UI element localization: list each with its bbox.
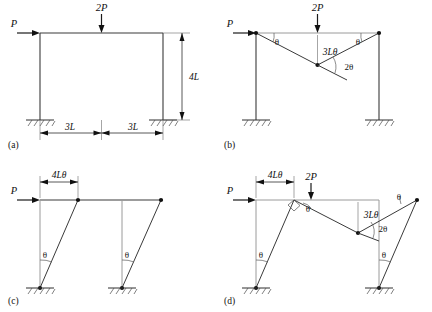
- panel-a-dim-4L: 4L: [163, 33, 199, 120]
- panel-b-load-P-label: P: [226, 18, 234, 29]
- panel-d-hinge-top-right: [415, 198, 419, 202]
- panel-a-load-2P-label: 2P: [96, 2, 108, 13]
- panel-c-right-column-displaced: [122, 200, 161, 288]
- panel-a-dim-4L-label: 4L: [189, 72, 199, 82]
- figure-root: P 2P 4L 3L 3L: [0, 0, 432, 312]
- panel-b-load-2P: 2P: [312, 2, 324, 33]
- panel-a-dim-3L-right: 3L: [102, 120, 164, 140]
- panel-c-angle-left: θ: [40, 250, 52, 262]
- panel-d-load-2P-label: 2P: [305, 171, 317, 182]
- panel-b-angle-right: θ: [356, 33, 362, 47]
- panel-c-angle-right: θ: [122, 250, 134, 262]
- panel-d-load-P-label: P: [226, 185, 234, 196]
- panel-a-load-2P: 2P: [96, 2, 108, 33]
- panel-d-angle-beam-right-label: θ: [397, 192, 401, 202]
- panel-d-angle-apex-label: 2θ: [379, 224, 388, 234]
- panel-b-deflection: 3Lθ: [318, 35, 338, 63]
- panel-d-dim-4Ltheta-label: 4Lθ: [268, 170, 283, 180]
- panel-d-angle-beam-left-label: θ: [306, 204, 310, 214]
- panel-d-left-column-displaced: [256, 200, 294, 288]
- panel-b-support-left: [242, 120, 271, 126]
- panel-a-support-left: [26, 120, 55, 126]
- panel-b-hinge-right: [377, 31, 381, 35]
- panel-d-dim-4Ltheta: 4Lθ: [256, 170, 294, 198]
- panel-d-right-column-displaced: [379, 200, 417, 288]
- panel-d-angle-right-column: θ: [379, 250, 391, 262]
- panel-a-load-P: P: [10, 18, 40, 36]
- panel-b-load-P: P: [226, 18, 256, 36]
- panel-c-angle-left-label: θ: [43, 250, 47, 260]
- panel-c-left-column-displaced: [40, 200, 78, 288]
- panel-c-load-P-label: P: [10, 185, 18, 196]
- panel-b-angle-apex-label: 2θ: [345, 62, 354, 72]
- panel-d-angle-beam-left: θ: [303, 203, 311, 214]
- panel-d-angle-right-column-label: θ: [382, 250, 386, 260]
- panel-a-label: (a): [8, 140, 19, 151]
- panel-a-dim-3L-left: 3L: [40, 120, 102, 140]
- panel-c-label: (c): [8, 296, 19, 307]
- panel-b-angle-left-label: θ: [275, 37, 279, 47]
- panel-c: P 4Lθ θ θ (c): [8, 170, 163, 307]
- panel-a-load-P-label: P: [10, 18, 18, 29]
- panel-b-support-right: [365, 120, 394, 126]
- panel-a-dim-3L-right-label: 3L: [127, 122, 138, 132]
- panel-c-load-P: P: [10, 185, 40, 203]
- panel-b: P 2P θ θ 3Lθ 2θ (b): [224, 2, 394, 151]
- panel-b-deflection-label: 3Lθ: [322, 47, 338, 57]
- panel-d-deflection-label: 3Lθ: [363, 210, 379, 220]
- panel-d-label: (d): [224, 296, 235, 307]
- panel-c-dim-4Ltheta-label: 4Lθ: [52, 170, 67, 180]
- panel-c-hinge-top-left: [76, 198, 80, 202]
- panel-a-dim-3L-left-label: 3L: [64, 122, 75, 132]
- panel-b-load-2P-label: 2P: [312, 2, 324, 13]
- mechanisms-figure: P 2P 4L 3L 3L: [0, 0, 432, 312]
- panel-d-load-2P: 2P: [305, 171, 317, 200]
- panel-b-angle-right-label: θ: [356, 37, 360, 47]
- panel-d-angle-left-column: θ: [256, 250, 268, 262]
- panel-d-load-P: P: [226, 185, 256, 203]
- panel-c-dim-4Ltheta: 4Lθ: [40, 170, 78, 198]
- panel-b-label: (b): [224, 140, 235, 151]
- panel-c-angle-right-label: θ: [125, 250, 129, 260]
- panel-a-support-right: [149, 120, 178, 126]
- panel-d-angle-apex: 2θ: [358, 222, 387, 241]
- panel-d-beam-mechanism: [294, 200, 417, 233]
- panel-d-angle-beam-right: θ: [397, 192, 401, 204]
- panel-c-hinge-top-right: [159, 198, 163, 202]
- panel-d-angle-left-column-label: θ: [259, 250, 263, 260]
- panel-b-angle-left: θ: [273, 33, 279, 47]
- panel-a: P 2P 4L 3L 3L: [8, 2, 199, 151]
- panel-d: P 2P 4Lθ θ θ 3Lθ: [224, 170, 419, 307]
- panel-b-angle-apex: 2θ: [318, 57, 354, 80]
